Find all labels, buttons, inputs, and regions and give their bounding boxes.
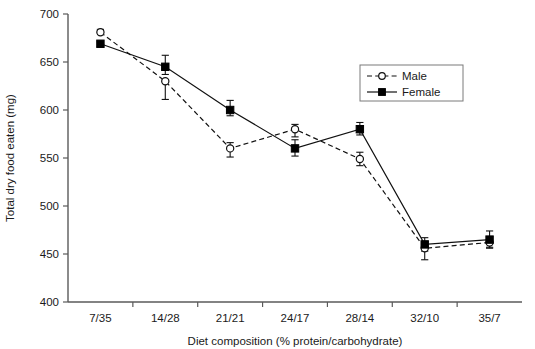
legend-label-female: Female [402,86,440,98]
x-tick-label: 28/14 [345,312,374,324]
data-point-female [356,126,363,133]
x-axis-ticks: 7/3514/2821/2124/1728/1432/1035/7 [89,302,501,324]
data-point-male [291,126,298,133]
x-tick-label: 14/28 [151,312,180,324]
data-point-female [226,106,233,113]
y-axis-ticks: 400450500550600650700 [40,8,68,308]
x-tick-label: 24/17 [281,312,310,324]
data-point-male [162,78,169,85]
data-point-female [162,63,169,70]
x-tick-label: 32/10 [410,312,439,324]
chart-axes [68,14,522,302]
y-tick-label: 550 [40,152,59,164]
line-chart: 400450500550600650700 7/3514/2821/2124/1… [0,0,535,349]
legend-label-male: Male [402,70,427,82]
x-tick-label: 7/35 [89,312,111,324]
y-tick-label: 400 [40,296,59,308]
legend-marker-male [379,73,386,80]
x-tick-label: 21/21 [216,312,245,324]
y-axis-title: Total dry food eaten (mg) [4,94,16,222]
y-tick-label: 500 [40,200,59,212]
legend-marker-female [379,89,386,96]
data-point-female [421,241,428,248]
y-tick-label: 600 [40,104,59,116]
data-point-female [291,145,298,152]
data-point-male [97,29,104,36]
data-point-male [356,155,363,162]
data-point-male [227,145,234,152]
y-tick-label: 700 [40,8,59,20]
data-point-female [97,40,104,47]
data-point-female [486,236,493,243]
x-tick-label: 35/7 [478,312,500,324]
chart-figure: 400450500550600650700 7/3514/2821/2124/1… [0,0,535,349]
y-tick-label: 450 [40,248,59,260]
x-axis-title: Diet composition (% protein/carbohydrate… [188,335,403,347]
y-tick-label: 650 [40,56,59,68]
chart-legend: MaleFemale [360,65,463,101]
data-series-layer [97,29,494,260]
